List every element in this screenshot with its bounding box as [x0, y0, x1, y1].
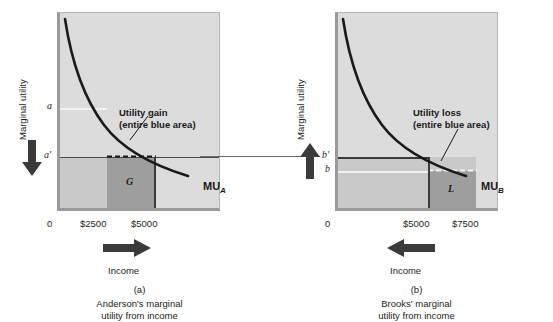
panel-a-ytick-aprime: a': [44, 149, 51, 160]
panel-b-x-axis-title: Income: [390, 265, 421, 276]
panel-b-xtick-5000: $5000: [403, 218, 429, 229]
panel-a-callout-line2: (entire blue area): [119, 119, 196, 131]
panel-b-region-l-label: L: [448, 183, 454, 194]
panel-a-x-axis-title: Income: [108, 265, 139, 276]
marginal-utility-figure: Marginal utility: [0, 0, 553, 322]
panel-b-y-axis-title: Marginal utility: [295, 79, 306, 140]
panel-b-caption-line2: utility from income: [335, 309, 498, 322]
up-arrow-icon: [300, 143, 320, 179]
panel-b-ytick-b: b: [325, 163, 330, 174]
panel-a-region-g-label: G: [126, 176, 133, 187]
panel-a-callout-line1: Utility gain: [119, 107, 168, 119]
panel-b-callout-line1: Utility loss: [413, 107, 461, 119]
panel-a-y-axis-title: Marginal utility: [17, 79, 28, 140]
panel-b-curve-label: MUB: [481, 180, 504, 195]
panel-a-xtick-5000: $5000: [131, 218, 157, 229]
panel-a-curve-label-text: MU: [203, 180, 220, 192]
panel-b-callout-line2: (entire blue area): [413, 119, 490, 131]
panel-a-curve-label: MUA: [203, 180, 226, 195]
panel-b: Marginal utility: [277, 0, 553, 322]
right-arrow-icon: [103, 239, 151, 257]
panel-a-curve-subscript: A: [220, 186, 226, 195]
panel-a-caption-line2: utility from income: [58, 309, 221, 322]
panel-b-origin-label: 0: [325, 218, 330, 229]
panel-a-origin-label: 0: [47, 218, 52, 229]
panel-b-ytick-bprime: b': [322, 149, 329, 160]
panel-b-id: (b): [335, 283, 498, 297]
panel-b-curve-subscript: B: [498, 186, 504, 195]
panel-b-curve-label-text: MU: [481, 180, 498, 192]
panel-b-xtick-7500: $7500: [452, 218, 478, 229]
left-arrow-icon: [387, 239, 435, 257]
panel-a-ytick-a: a: [47, 100, 52, 111]
panel-a: Marginal utility: [0, 0, 276, 322]
panel-a-xtick-2500: $2500: [80, 218, 106, 229]
panel-a-id: (a): [58, 283, 221, 297]
down-arrow-icon: [22, 140, 42, 176]
